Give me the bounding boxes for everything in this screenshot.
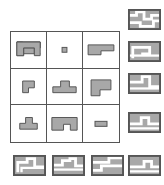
option-tile-4[interactable]	[128, 112, 161, 133]
arch-inverted-u-icon	[11, 32, 46, 68]
option-tile-2[interactable]	[128, 41, 161, 62]
matrix-cell-r1c1[interactable]	[11, 32, 47, 69]
matrix-cell-r2c3[interactable]	[83, 69, 119, 106]
tee-icon	[47, 69, 82, 105]
matrix-cell-r3c3[interactable]	[83, 105, 119, 142]
matrix-cell-r1c3[interactable]	[83, 32, 119, 69]
maze-step-pattern-a-icon	[129, 10, 160, 29]
small-square-icon	[47, 32, 82, 68]
maze-step-pattern-h-icon	[129, 156, 160, 175]
maze-step-pattern-d-icon	[129, 113, 160, 132]
maze-step-pattern-f-icon	[53, 156, 84, 175]
option-tile-6[interactable]	[52, 155, 85, 176]
matrix-cell-r3c2[interactable]	[47, 105, 83, 142]
small-tee-icon	[11, 105, 46, 142]
maze-step-pattern-g-icon	[92, 156, 123, 175]
option-tile-7[interactable]	[91, 155, 124, 176]
matrix-grid	[10, 31, 120, 143]
option-tile-5[interactable]	[13, 155, 46, 176]
notched-rectangle-icon	[47, 105, 82, 142]
matrix-cell-r2c1[interactable]	[11, 69, 47, 106]
matrix-cell-r2c2[interactable]	[47, 69, 83, 106]
matrix-cell-r3c1[interactable]	[11, 105, 47, 142]
matrix-cell-r1c2[interactable]	[47, 32, 83, 69]
maze-spiral-pattern-b-icon	[129, 42, 160, 61]
small-gamma-icon	[11, 69, 46, 105]
puzzle-root	[0, 0, 164, 185]
option-tile-8[interactable]	[128, 155, 161, 176]
option-tile-1[interactable]	[128, 9, 161, 30]
small-rectangle-icon	[83, 105, 119, 142]
large-gamma-icon	[83, 69, 119, 105]
option-tile-3[interactable]	[128, 73, 161, 94]
maze-step-pattern-e-icon	[14, 156, 45, 175]
maze-step-pattern-c-icon	[129, 74, 160, 93]
step-bar-right-icon	[83, 32, 119, 68]
